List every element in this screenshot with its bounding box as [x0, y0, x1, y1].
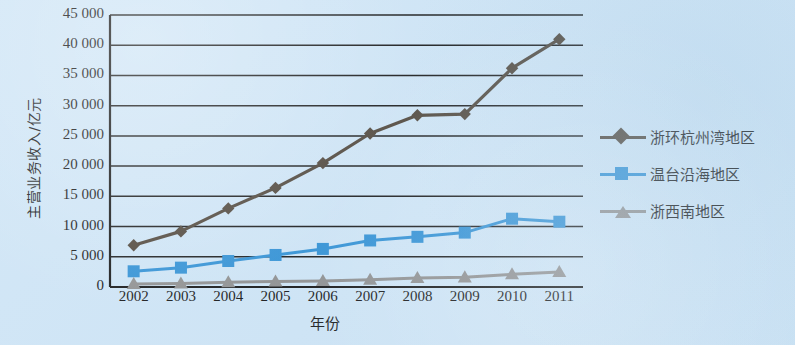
y-tick-label: 5 000	[34, 247, 104, 264]
data-point-square	[459, 227, 471, 239]
x-tick-label: 2005	[251, 288, 301, 305]
data-point-square	[364, 234, 376, 246]
y-tick-label: 40 000	[34, 35, 104, 52]
x-axis-title: 年份	[265, 312, 385, 333]
x-axis-tick-labels: 2002200320042005200620072008200920102011	[0, 288, 600, 312]
y-tick-label: 30 000	[34, 96, 104, 113]
legend-item-1[interactable]: 浙环杭州湾地区	[600, 118, 790, 155]
x-tick-label: 2011	[534, 288, 584, 305]
chart-figure: 45 00040 00035 00030 00025 00020 00015 0…	[0, 0, 795, 345]
legend-marker-square-icon	[615, 167, 628, 180]
legend-key	[600, 165, 646, 183]
data-point-square	[411, 231, 423, 243]
series-line	[134, 39, 560, 245]
data-point-square	[222, 255, 234, 267]
y-tick-label: 20 000	[34, 156, 104, 173]
data-point-diamond	[411, 109, 423, 121]
data-point-diamond	[128, 239, 140, 251]
data-point-square	[270, 249, 282, 261]
series-3	[127, 265, 567, 289]
legend-marker-triangle-icon	[615, 206, 631, 218]
x-tick-label: 2004	[203, 288, 253, 305]
x-tick-label: 2007	[345, 288, 395, 305]
legend-key	[600, 128, 646, 146]
x-tick-label: 2006	[298, 288, 348, 305]
chart-legend: 浙环杭州湾地区温台沿海地区浙西南地区	[600, 118, 790, 229]
legend-item-3[interactable]: 浙西南地区	[600, 192, 790, 229]
series-line	[134, 272, 560, 284]
series-2	[128, 213, 566, 278]
x-tick-label: 2008	[392, 288, 442, 305]
y-tick-label: 10 000	[34, 217, 104, 234]
legend-item-2[interactable]: 温台沿海地区	[600, 155, 790, 192]
legend-label: 浙环杭州湾地区	[650, 126, 755, 147]
data-point-square	[553, 216, 565, 228]
series-1	[128, 33, 566, 252]
y-tick-label: 25 000	[34, 126, 104, 143]
legend-label: 浙西南地区	[650, 200, 725, 221]
x-tick-label: 2009	[440, 288, 490, 305]
legend-marker-diamond-icon	[613, 127, 630, 144]
data-point-square	[317, 243, 329, 255]
data-point-diamond	[269, 182, 281, 194]
y-tick-label: 15 000	[34, 186, 104, 203]
x-tick-label: 2003	[156, 288, 206, 305]
y-tick-label: 35 000	[34, 65, 104, 82]
legend-label: 温台沿海地区	[650, 163, 740, 184]
x-tick-label: 2002	[109, 288, 159, 305]
y-axis-title: 主营业务收入/亿元	[23, 63, 43, 253]
data-point-square	[175, 262, 187, 274]
y-tick-label: 45 000	[34, 5, 104, 22]
data-point-square	[506, 213, 518, 225]
legend-key	[600, 202, 646, 220]
data-point-square	[128, 265, 140, 277]
x-tick-label: 2010	[487, 288, 537, 305]
data-point-diamond	[222, 202, 234, 214]
